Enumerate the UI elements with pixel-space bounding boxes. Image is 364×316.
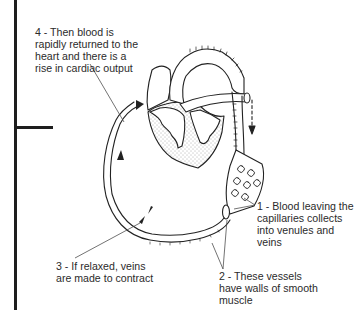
flow-arrow-upper xyxy=(136,100,144,110)
label-line: veins xyxy=(257,236,354,248)
label-line: 4 - Then blood is xyxy=(35,26,138,38)
label-line: muscle xyxy=(219,294,318,306)
label-step-2: 2 - These vessels have walls of smooth m… xyxy=(219,270,318,306)
label-line: 2 - These vessels xyxy=(219,270,318,282)
leader-step-2a xyxy=(212,243,223,269)
label-step-3: 3 - If relaxed, veins are made to contra… xyxy=(56,260,153,284)
label-line: 3 - If relaxed, veins xyxy=(56,260,153,272)
label-line: rise in cardiac output xyxy=(35,62,138,74)
flow-arrow-mid xyxy=(117,150,124,160)
label-line: heart and there is a xyxy=(35,50,138,62)
label-line: have walls of smooth xyxy=(219,282,318,294)
label-line: are made to contract xyxy=(56,272,153,284)
label-line: capillaries collects xyxy=(257,212,354,224)
pinch-arrow-left xyxy=(139,216,145,224)
label-step-1: 1 - Blood leaving the capillaries collec… xyxy=(257,200,354,248)
label-line: into venules and xyxy=(257,224,354,236)
label-line: 1 - Blood leaving the xyxy=(257,200,354,212)
label-line: rapidly returned to the xyxy=(35,38,138,50)
pinch-arrow-right xyxy=(148,206,153,214)
leader-step-3 xyxy=(75,223,140,258)
label-step-4: 4 - Then blood is rapidly returned to th… xyxy=(35,26,138,74)
